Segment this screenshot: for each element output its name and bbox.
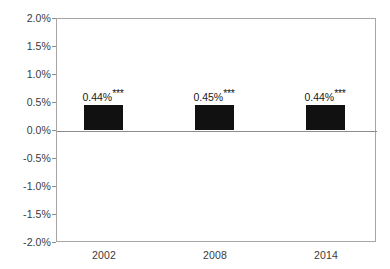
bar-value-label-2008: 0.45%*** [169, 88, 259, 103]
y-axis-tick-label: -2.0% [23, 237, 51, 248]
y-axis-tick-label: 1.5% [27, 41, 51, 52]
x-axis-tick-label-2008: 2008 [175, 250, 255, 261]
y-axis-tick-label: 1.0% [27, 69, 51, 80]
bar-value-text: 0.45% [193, 91, 223, 103]
significance-mark: *** [223, 87, 234, 99]
significance-mark: *** [334, 87, 345, 99]
x-axis-tick-label-2002: 2002 [64, 250, 144, 261]
bar-2014 [306, 105, 345, 130]
bar-chart: 2.0% 1.5% 1.0% 0.5% 0.0% -0.5% -1.0% -1.… [0, 0, 390, 269]
y-axis-tick-mark [52, 242, 56, 243]
plot-area [56, 18, 376, 242]
y-axis-tick-label: 0.0% [27, 125, 51, 136]
zero-baseline [57, 131, 377, 132]
bar-value-text: 0.44% [304, 91, 334, 103]
bar-2002 [84, 105, 123, 130]
y-axis-tick-label: -1.0% [23, 181, 51, 192]
y-axis-tick-label: 0.5% [27, 97, 51, 108]
y-axis-tick-label: -1.5% [23, 209, 51, 220]
bar-2008 [195, 105, 234, 130]
bar-value-text: 0.44% [82, 91, 112, 103]
x-axis-tick-label-2014: 2014 [286, 250, 366, 261]
bar-value-label-2002: 0.44%*** [58, 88, 148, 103]
bar-value-label-2014: 0.44%*** [280, 88, 370, 103]
significance-mark: *** [112, 87, 123, 99]
y-axis-tick-label: -0.5% [23, 153, 51, 164]
y-axis-tick-label: 2.0% [27, 13, 51, 24]
